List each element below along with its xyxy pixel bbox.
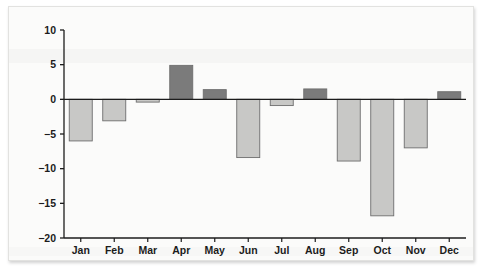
bar-jan	[69, 99, 92, 141]
bar-jul	[270, 99, 293, 105]
bar-apr	[170, 65, 193, 99]
x-tick-label-dec: Dec	[440, 244, 459, 256]
x-tick-label-nov: Nov	[406, 244, 426, 256]
y-tick-label: 5	[50, 58, 56, 70]
bar-chart: 1050−5−10−15−20 JanFebMarAprMayJunJulAug…	[0, 0, 487, 275]
x-tick-label-jul: Jul	[274, 244, 289, 256]
bar-nov	[404, 99, 427, 148]
y-tick-label: −15	[38, 197, 56, 209]
x-tick-label-mar: Mar	[138, 244, 157, 256]
bars-group	[69, 65, 461, 215]
bar-dec	[438, 92, 461, 100]
chart-page: 1050−5−10−15−20 JanFebMarAprMayJunJulAug…	[0, 0, 487, 275]
x-tick-label-jun: Jun	[239, 244, 258, 256]
x-tick-label-sep: Sep	[339, 244, 358, 256]
x-tick-label-feb: Feb	[105, 244, 124, 256]
bar-oct	[371, 99, 394, 215]
bar-feb	[103, 99, 126, 120]
y-tick-label: −10	[38, 162, 56, 174]
x-axis: JanFebMarAprMayJunJulAugSepOctNovDec	[64, 238, 466, 256]
y-tick-label: −20	[38, 232, 56, 244]
bar-aug	[304, 89, 327, 99]
bar-may	[203, 90, 226, 100]
x-tick-label-may: May	[205, 244, 226, 256]
y-axis: 1050−5−10−15−20	[38, 24, 64, 244]
x-tick-label-jan: Jan	[72, 244, 90, 256]
x-tick-label-oct: Oct	[373, 244, 391, 256]
x-tick-label-aug: Aug	[305, 244, 325, 256]
y-tick-label: −5	[44, 128, 56, 140]
y-tick-label: 10	[44, 24, 56, 36]
y-tick-label: 0	[50, 93, 56, 105]
bar-jun	[237, 99, 260, 157]
x-tick-label-apr: Apr	[172, 244, 190, 256]
bar-sep	[337, 99, 360, 161]
